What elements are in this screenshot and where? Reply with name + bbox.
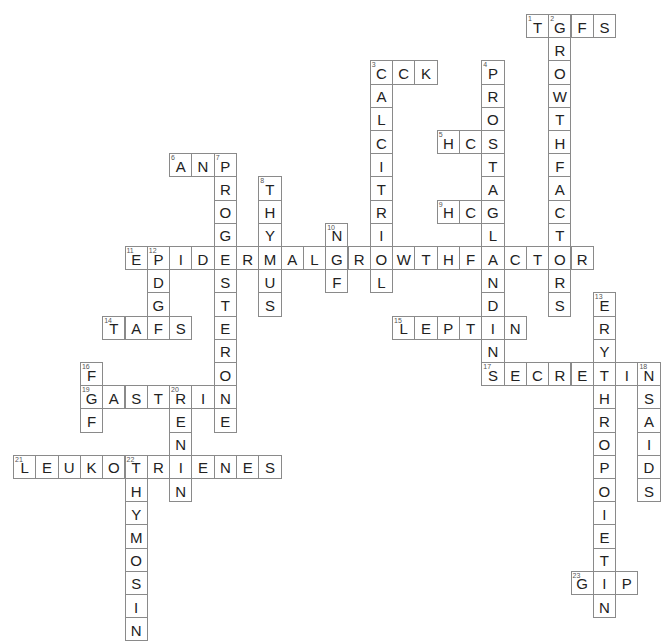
crossword-cell[interactable]: T xyxy=(593,548,616,572)
crossword-cell[interactable]: 4P xyxy=(481,60,504,84)
crossword-cell[interactable]: K xyxy=(414,60,437,84)
crossword-cell[interactable]: G xyxy=(214,223,237,247)
crossword-cell[interactable]: 21L xyxy=(13,455,36,479)
crossword-cell[interactable]: H xyxy=(593,385,616,409)
crossword-cell[interactable]: R xyxy=(548,37,571,61)
crossword-cell[interactable]: N xyxy=(191,153,214,177)
crossword-cell[interactable]: G xyxy=(325,246,348,270)
crossword-cell[interactable]: 1T xyxy=(526,14,549,38)
crossword-cell[interactable]: A xyxy=(125,316,148,340)
crossword-cell[interactable]: R xyxy=(236,246,259,270)
crossword-cell[interactable]: C xyxy=(459,200,482,224)
crossword-cell[interactable]: R xyxy=(593,408,616,432)
crossword-cell[interactable]: T xyxy=(548,107,571,131)
crossword-cell[interactable]: R xyxy=(548,362,571,386)
crossword-cell[interactable]: U xyxy=(58,455,81,479)
crossword-cell[interactable]: F xyxy=(548,153,571,177)
crossword-cell[interactable]: 20R xyxy=(169,385,192,409)
crossword-cell[interactable]: P xyxy=(437,316,460,340)
crossword-cell[interactable]: E xyxy=(571,362,594,386)
crossword-cell[interactable]: D xyxy=(191,246,214,270)
crossword-cell[interactable]: W xyxy=(548,84,571,108)
crossword-cell[interactable]: 13E xyxy=(593,292,616,316)
crossword-cell[interactable]: S xyxy=(548,292,571,316)
crossword-cell[interactable]: Y xyxy=(593,339,616,363)
crossword-cell[interactable]: E xyxy=(214,246,237,270)
crossword-cell[interactable]: E xyxy=(593,524,616,548)
crossword-cell[interactable]: N xyxy=(481,339,504,363)
crossword-cell[interactable]: F xyxy=(147,316,170,340)
crossword-cell[interactable]: N xyxy=(481,269,504,293)
crossword-cell[interactable]: O xyxy=(548,60,571,84)
crossword-cell[interactable]: 16F xyxy=(80,362,103,386)
crossword-cell[interactable]: L xyxy=(303,246,326,270)
crossword-cell[interactable]: 2G xyxy=(548,14,571,38)
crossword-cell[interactable]: I xyxy=(593,571,616,595)
crossword-cell[interactable]: A xyxy=(481,246,504,270)
crossword-cell[interactable]: S xyxy=(258,292,281,316)
crossword-cell[interactable]: N xyxy=(593,594,616,618)
crossword-cell[interactable]: L xyxy=(370,269,393,293)
crossword-cell[interactable]: N xyxy=(214,385,237,409)
crossword-cell[interactable]: H xyxy=(125,478,148,502)
crossword-cell[interactable]: A xyxy=(370,84,393,108)
crossword-cell[interactable]: L xyxy=(481,223,504,247)
crossword-cell[interactable]: I xyxy=(637,432,660,456)
crossword-cell[interactable]: S xyxy=(169,316,192,340)
crossword-cell[interactable]: E xyxy=(191,455,214,479)
crossword-cell[interactable]: A xyxy=(102,385,125,409)
crossword-cell[interactable]: R xyxy=(214,176,237,200)
crossword-cell[interactable]: S xyxy=(125,571,148,595)
crossword-cell[interactable]: 3C xyxy=(370,60,393,84)
crossword-cell[interactable]: T xyxy=(214,292,237,316)
crossword-cell[interactable]: O xyxy=(214,362,237,386)
crossword-cell[interactable]: F xyxy=(325,269,348,293)
crossword-cell[interactable]: S xyxy=(637,385,660,409)
crossword-cell[interactable]: O xyxy=(125,548,148,572)
crossword-cell[interactable]: D xyxy=(481,292,504,316)
crossword-cell[interactable]: H xyxy=(548,130,571,154)
crossword-cell[interactable]: C xyxy=(392,60,415,84)
crossword-cell[interactable]: T xyxy=(414,246,437,270)
crossword-cell[interactable]: S xyxy=(637,478,660,502)
crossword-cell[interactable]: E xyxy=(504,362,527,386)
crossword-cell[interactable]: 7P xyxy=(214,153,237,177)
crossword-cell[interactable]: M xyxy=(125,524,148,548)
crossword-cell[interactable]: K xyxy=(80,455,103,479)
crossword-cell[interactable]: O xyxy=(370,246,393,270)
crossword-cell[interactable]: I xyxy=(169,246,192,270)
crossword-cell[interactable]: 17S xyxy=(481,362,504,386)
crossword-cell[interactable]: P xyxy=(593,455,616,479)
crossword-cell[interactable]: Y xyxy=(258,223,281,247)
crossword-cell[interactable]: E xyxy=(236,455,259,479)
crossword-cell[interactable]: I xyxy=(593,501,616,525)
crossword-cell[interactable]: I xyxy=(481,316,504,340)
crossword-cell[interactable]: 12P xyxy=(147,246,170,270)
crossword-cell[interactable]: 18N xyxy=(637,362,660,386)
crossword-cell[interactable]: N xyxy=(169,432,192,456)
crossword-cell[interactable]: O xyxy=(548,246,571,270)
crossword-cell[interactable]: A xyxy=(481,176,504,200)
crossword-cell[interactable]: F xyxy=(571,14,594,38)
crossword-cell[interactable]: O xyxy=(593,432,616,456)
crossword-cell[interactable]: C xyxy=(548,200,571,224)
crossword-cell[interactable]: P xyxy=(615,571,638,595)
crossword-cell[interactable]: C xyxy=(370,130,393,154)
crossword-cell[interactable]: E xyxy=(214,408,237,432)
crossword-cell[interactable]: 14T xyxy=(102,316,125,340)
crossword-cell[interactable]: E xyxy=(169,408,192,432)
crossword-cell[interactable]: H xyxy=(437,246,460,270)
crossword-cell[interactable]: O xyxy=(481,107,504,131)
crossword-cell[interactable]: R xyxy=(214,339,237,363)
crossword-cell[interactable]: U xyxy=(258,269,281,293)
crossword-cell[interactable]: I xyxy=(169,455,192,479)
crossword-cell[interactable]: 8T xyxy=(258,176,281,200)
crossword-cell[interactable]: 5H xyxy=(437,130,460,154)
crossword-cell[interactable]: M xyxy=(258,246,281,270)
crossword-cell[interactable]: T xyxy=(147,385,170,409)
crossword-cell[interactable]: C xyxy=(504,246,527,270)
crossword-cell[interactable]: 6A xyxy=(169,153,192,177)
crossword-cell[interactable]: C xyxy=(459,130,482,154)
crossword-cell[interactable]: 23G xyxy=(571,571,594,595)
crossword-cell[interactable]: E xyxy=(414,316,437,340)
